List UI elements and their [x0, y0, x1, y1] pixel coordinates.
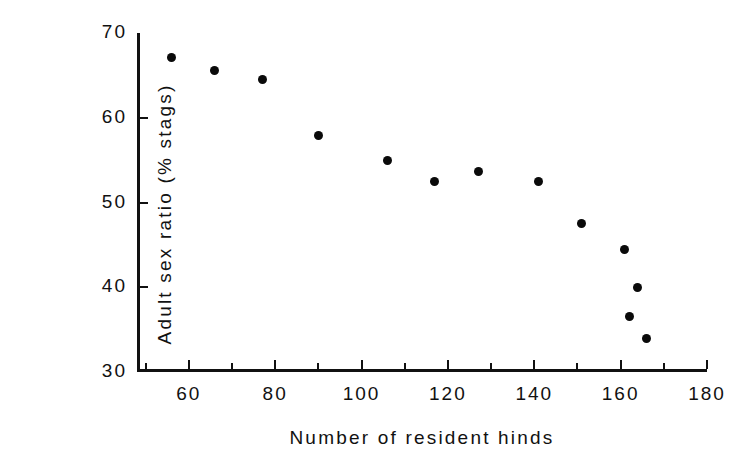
data-point	[620, 245, 629, 254]
y-tick-label-60: 60	[102, 106, 127, 128]
x-tick-minor-90	[317, 363, 319, 369]
x-tick-60	[188, 360, 190, 369]
x-tick-minor-150	[576, 363, 578, 369]
data-point	[430, 177, 439, 186]
x-tick-labels: 6080100120140160180	[137, 383, 707, 409]
data-point	[625, 312, 634, 321]
x-tick-label-100: 100	[343, 383, 381, 405]
x-tick-minor-50	[145, 363, 147, 369]
x-tick-minor-130	[490, 363, 492, 369]
x-tick-minor-110	[404, 363, 406, 369]
x-tick-minor-170	[663, 363, 665, 369]
x-tick-label-60: 60	[176, 383, 201, 405]
x-axis-title: Number of resident hinds	[137, 427, 707, 449]
x-tick-label-160: 160	[602, 383, 640, 405]
y-tick-labels: 3040506070	[75, 33, 127, 372]
x-tick-140	[533, 360, 535, 369]
y-tick-label-30: 30	[102, 360, 127, 382]
y-tick-50	[140, 202, 148, 204]
data-point	[383, 156, 392, 165]
data-point	[210, 66, 219, 75]
x-tick-marks	[137, 369, 707, 370]
y-tick-label-50: 50	[102, 191, 127, 213]
x-tick-120	[447, 360, 449, 369]
x-tick-minor-70	[231, 363, 233, 369]
data-point	[314, 131, 323, 140]
y-axis-title: Adult sex ratio (% stags)	[154, 34, 176, 394]
x-tick-180	[706, 360, 708, 369]
chart-page: Adult sex ratio (% stags) 3040506070 608…	[0, 0, 756, 470]
data-point	[258, 75, 267, 84]
y-tick-40	[140, 286, 148, 288]
y-tick-label-40: 40	[102, 275, 127, 297]
x-tick-label-120: 120	[429, 383, 467, 405]
data-point	[577, 219, 586, 228]
x-tick-label-180: 180	[688, 383, 726, 405]
data-point	[474, 167, 483, 176]
x-tick-100	[361, 360, 363, 369]
x-tick-label-140: 140	[515, 383, 553, 405]
y-tick-label-70: 70	[102, 21, 127, 43]
data-point	[642, 334, 651, 343]
y-tick-60	[140, 117, 148, 119]
x-tick-160	[620, 360, 622, 369]
data-point	[633, 283, 642, 292]
plot-area: Adult sex ratio (% stags)	[137, 33, 707, 372]
x-tick-80	[274, 360, 276, 369]
data-point	[534, 177, 543, 186]
x-tick-label-80: 80	[263, 383, 288, 405]
